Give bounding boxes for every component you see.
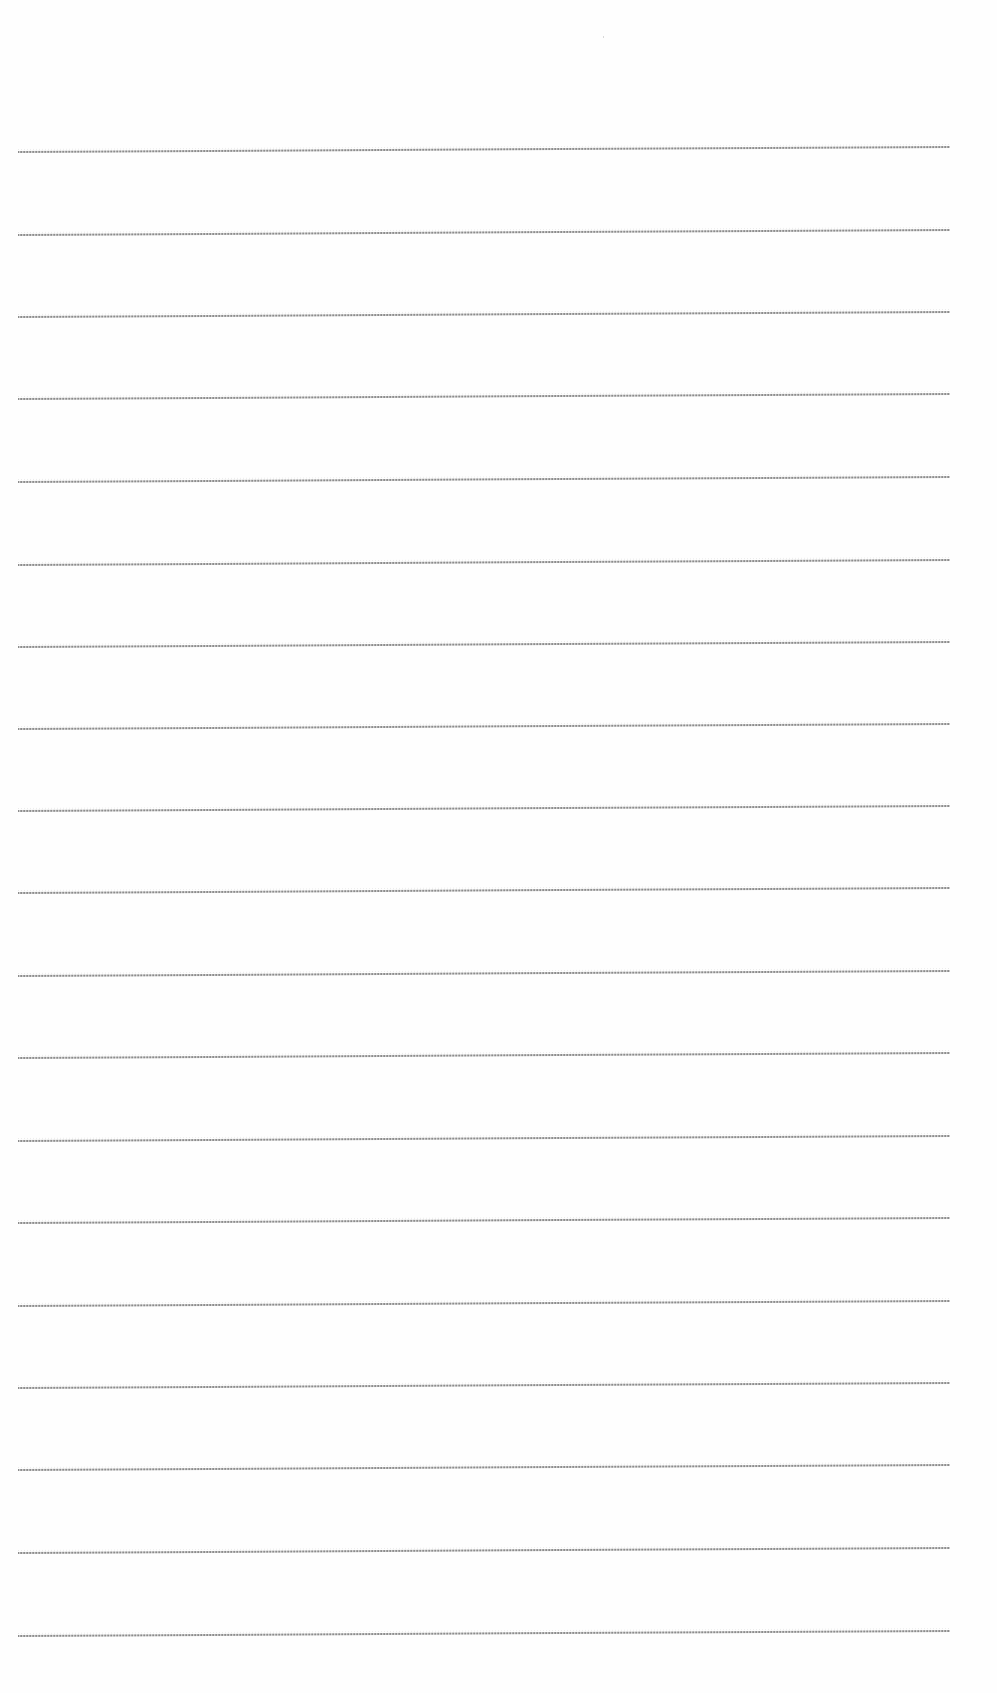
ruled-line [18,476,950,483]
ruled-line [18,1135,950,1142]
ruled-line [18,393,950,400]
ruled-line [18,1464,950,1471]
ruled-line [18,723,950,730]
ruled-line [18,1052,950,1059]
ruled-line [18,1547,950,1554]
ruled-line [18,887,950,894]
ruled-line [18,1300,950,1307]
lined-paper-page [0,0,997,1693]
ruled-line [18,1217,950,1224]
ruled-line [18,1382,950,1389]
ruled-line [18,146,950,153]
ruled-line [18,559,950,566]
scan-speck [603,36,604,38]
ruled-line [18,641,950,648]
ruled-line [18,229,950,236]
ruled-line [18,1630,950,1637]
ruled-line [18,805,950,812]
ruled-line [18,311,950,318]
ruled-line [18,970,950,977]
